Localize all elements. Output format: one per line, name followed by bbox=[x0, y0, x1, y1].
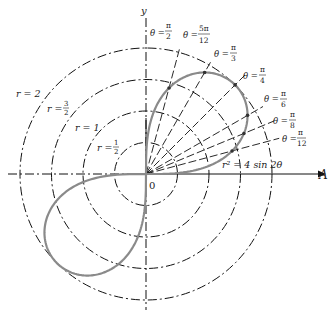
curve-ray-intersection bbox=[167, 86, 171, 90]
origin-label: 0 bbox=[149, 180, 155, 191]
svg-text:π: π bbox=[231, 43, 236, 52]
svg-text:π: π bbox=[281, 89, 286, 98]
x-axis-label: A bbox=[318, 168, 328, 182]
svg-text:2: 2 bbox=[64, 109, 68, 117]
svg-text:θ =: θ = bbox=[282, 134, 297, 144]
svg-text:r =: r = bbox=[97, 142, 113, 153]
label-theta-pi-8: θ = π 8 bbox=[273, 110, 296, 130]
curve-ray-intersection bbox=[246, 114, 250, 118]
svg-text:θ =: θ = bbox=[150, 28, 165, 38]
label-theta-pi-2: θ = π 2 bbox=[150, 21, 172, 41]
curve-ray-intersection bbox=[242, 132, 246, 136]
svg-text:8: 8 bbox=[290, 121, 295, 130]
svg-text:π: π bbox=[260, 65, 265, 74]
equation-label: r² = 4 sin 2θ bbox=[222, 159, 283, 170]
svg-text:π: π bbox=[290, 110, 295, 119]
svg-text:12: 12 bbox=[199, 36, 209, 45]
svg-text:π: π bbox=[298, 128, 303, 137]
label-r-1: r = 1 bbox=[75, 122, 100, 133]
curve-ray-intersection bbox=[233, 83, 237, 87]
svg-text:1: 1 bbox=[114, 139, 118, 147]
ray-5pi-12 bbox=[146, 47, 180, 174]
label-r-2: r = 2 bbox=[16, 88, 41, 99]
svg-text:θ =: θ = bbox=[214, 49, 229, 59]
polar-lemniscate-diagram: y A 0 r² = 4 sin 2θ r = 2 r = 3 2 r = 1 … bbox=[0, 0, 332, 317]
svg-text:2: 2 bbox=[166, 32, 171, 41]
label-r-three-halves: r = 3 2 bbox=[47, 100, 69, 117]
label-theta-pi-6: θ = π 6 bbox=[264, 89, 287, 109]
svg-text:4: 4 bbox=[260, 76, 265, 85]
svg-text:6: 6 bbox=[281, 100, 286, 109]
svg-text:θ =: θ = bbox=[273, 116, 288, 126]
curve-ray-intersection bbox=[230, 149, 234, 153]
ray-pi-3 bbox=[146, 61, 211, 174]
svg-text:3: 3 bbox=[64, 100, 68, 108]
svg-text:θ =: θ = bbox=[243, 71, 258, 81]
label-theta-pi-4: θ = π 4 bbox=[243, 65, 266, 85]
svg-text:θ =: θ = bbox=[264, 94, 279, 104]
label-theta-5pi-12: θ = 5π 12 bbox=[183, 24, 210, 45]
label-theta-pi-3: θ = π 3 bbox=[214, 43, 237, 63]
svg-text:θ =: θ = bbox=[183, 30, 198, 40]
svg-text:12: 12 bbox=[297, 139, 307, 148]
label-theta-pi-12: θ = π 12 bbox=[282, 128, 307, 148]
svg-text:π: π bbox=[166, 21, 171, 30]
svg-text:5π: 5π bbox=[199, 24, 209, 33]
y-axis-label: y bbox=[140, 5, 147, 16]
curve-ray-intersection bbox=[203, 71, 207, 75]
svg-text:3: 3 bbox=[231, 54, 236, 63]
svg-text:2: 2 bbox=[114, 148, 118, 156]
svg-text:r =: r = bbox=[47, 103, 63, 114]
label-r-half: r = 1 2 bbox=[97, 139, 119, 156]
